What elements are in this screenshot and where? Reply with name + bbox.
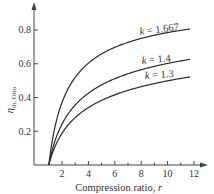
curve-k-1.667 xyxy=(49,29,190,165)
y-tick-label-0.6: 0.6 xyxy=(19,58,32,69)
y-tick-label-0.2: 0.2 xyxy=(19,126,32,137)
y-ticks xyxy=(34,30,38,131)
curve-label-k-1.3: k = 1.3 xyxy=(144,68,174,81)
x-tick-label-8: 8 xyxy=(139,168,144,179)
x-tick-label-2: 2 xyxy=(60,168,65,179)
y-axis-arrow-icon xyxy=(32,2,37,10)
curves xyxy=(49,29,190,165)
curve-label-k-1.667: k = 1.667 xyxy=(139,21,180,37)
x-axis-arrow-icon xyxy=(200,163,208,168)
y-tick-label-0.4: 0.4 xyxy=(19,92,32,103)
x-tick-label-4: 4 xyxy=(86,168,91,179)
y-axis-title: ηth, Otto xyxy=(4,86,18,113)
otto-efficiency-chart: 0.2 0.4 0.6 0.8 2 4 6 8 10 12 Compressio… xyxy=(0,0,214,194)
y-tick-label-0.8: 0.8 xyxy=(19,24,32,35)
curve-k-1.3 xyxy=(49,77,190,165)
x-tick-label-6: 6 xyxy=(112,168,117,179)
x-axis-title: Compression ratio, r xyxy=(75,182,163,193)
x-tick-label-10: 10 xyxy=(163,168,173,179)
x-tick-label-12: 12 xyxy=(189,168,199,179)
x-ticks xyxy=(62,161,194,165)
